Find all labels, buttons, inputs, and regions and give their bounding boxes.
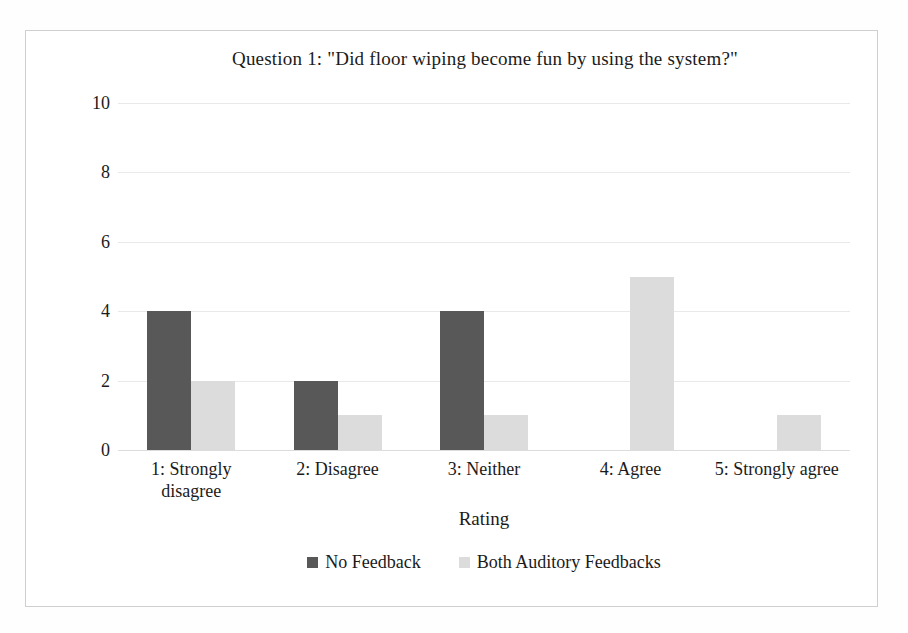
x-tick-label-3: 3: Neither [411,458,557,480]
bar-no-feedback-cat2 [294,381,338,450]
y-tick-label-4: 4 [70,302,110,320]
legend-swatch-icon [459,557,470,568]
bar-no-feedback-cat3 [440,311,484,450]
y-tick-label-8: 8 [70,163,110,181]
legend-item-no-feedback[interactable]: No Feedback [307,552,420,573]
gridline-6 [118,242,850,243]
legend-label: Both Auditory Feedbacks [477,552,661,573]
x-axis-title: Rating [118,508,850,530]
bar-both-auditory-feedbacks-cat2 [338,415,382,450]
gridline-0 [118,450,850,451]
gridline-4 [118,311,850,312]
bar-both-auditory-feedbacks-cat3 [484,415,528,450]
y-axis-tick-labels: 0246810 [60,103,110,450]
bar-both-auditory-feedbacks-cat5 [777,415,821,450]
y-tick-label-2: 2 [70,372,110,390]
y-tick-label-6: 6 [70,233,110,251]
legend-label: No Feedback [325,552,420,573]
x-tick-label-2: 2: Disagree [264,458,410,480]
y-tick-label-10: 10 [70,94,110,112]
legend-swatch-icon [307,557,318,568]
x-tick-label-4: 4: Agree [557,458,703,480]
x-tick-label-5: 5: Strongly agree [704,458,850,480]
y-tick-label-0: 0 [70,441,110,459]
bar-both-auditory-feedbacks-cat4 [630,277,674,451]
chart-legend: No FeedbackBoth Auditory Feedbacks [118,552,850,573]
x-tick-label-1: 1: Stronglydisagree [118,458,264,502]
legend-item-both-auditory-feedbacks[interactable]: Both Auditory Feedbacks [459,552,661,573]
x-axis-tick-labels: 1: Stronglydisagree2: Disagree3: Neither… [118,458,850,506]
gridline-10 [118,103,850,104]
chart-title: Question 1: "Did floor wiping become fun… [120,48,850,70]
figure-container: Question 1: "Did floor wiping become fun… [0,0,908,633]
plot-area [118,103,850,450]
bar-both-auditory-feedbacks-cat1 [191,381,235,450]
gridline-8 [118,172,850,173]
bar-no-feedback-cat1 [147,311,191,450]
